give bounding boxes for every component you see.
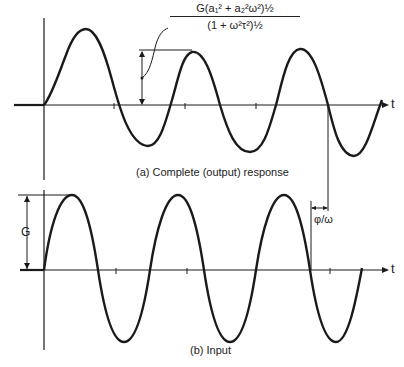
phase-shift-dimension (311, 105, 328, 270)
formula-numerator: G(a₁² + a₂²ω²)½ (170, 2, 300, 17)
amplitude-formula: G(a₁² + a₂²ω²)½ (1 + ω²τ²)½ (170, 2, 300, 31)
panel-a-t-label: t (391, 96, 395, 111)
formula-denominator: (1 + ω²τ²)½ (170, 17, 300, 31)
phase-shift-label: φ/ω (314, 213, 333, 225)
panel-b-caption: (b) Input (190, 344, 231, 356)
diagram-canvas (0, 0, 404, 367)
panel-a-caption: (a) Complete (output) response (136, 166, 289, 178)
panel-b-amplitude-label: G (21, 225, 30, 239)
output-response-curve (44, 29, 382, 156)
amplitude-dimension-a (139, 28, 192, 105)
panel-b-t-label: t (391, 261, 395, 276)
